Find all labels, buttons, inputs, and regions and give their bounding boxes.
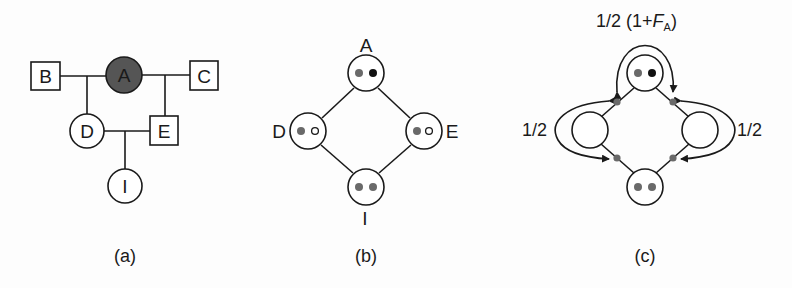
node-a xyxy=(348,55,384,91)
allele-black-icon xyxy=(648,69,656,77)
label-d: D xyxy=(272,121,286,142)
label-i: I xyxy=(122,176,127,197)
label-c: C xyxy=(197,66,211,87)
allele-gray-icon xyxy=(369,183,377,191)
edge-d-i xyxy=(321,145,353,173)
caption-a: (a) xyxy=(114,246,136,266)
label-b: B xyxy=(39,66,52,87)
node-right xyxy=(682,112,718,148)
gamete-dot-icon xyxy=(613,154,620,161)
gamete-dot-icon xyxy=(669,98,676,105)
node-bottom xyxy=(627,169,663,205)
node-d xyxy=(290,113,326,149)
label-a: A xyxy=(118,65,131,86)
label-e: E xyxy=(446,121,459,142)
label-top-probability: 1/2 (1+FA) xyxy=(596,11,677,33)
allele-gray-icon xyxy=(634,69,642,77)
label-right-probability: 1/2 xyxy=(737,120,762,140)
caption-c: (c) xyxy=(635,246,656,266)
allele-open-icon xyxy=(426,128,433,135)
allele-gray-icon xyxy=(355,183,363,191)
label-left-probability: 1/2 xyxy=(522,120,547,140)
caption-b: (b) xyxy=(355,246,377,266)
gamete-dot-icon xyxy=(613,98,620,105)
figure: B A C D E I (a) A D E I (b) xyxy=(0,0,792,288)
label-i: I xyxy=(362,208,367,229)
node-i xyxy=(348,169,384,205)
allele-gray-icon xyxy=(297,127,305,135)
allele-open-icon xyxy=(312,128,319,135)
panel-c-probability-diagram xyxy=(555,46,734,206)
node-left xyxy=(572,112,608,148)
label-e: E xyxy=(158,121,171,142)
edge-a-d xyxy=(322,88,354,118)
allele-gray-icon xyxy=(355,69,363,77)
gamete-dot-icon xyxy=(669,154,676,161)
node-e xyxy=(406,113,442,149)
edge-a-e xyxy=(378,88,410,118)
label-a: A xyxy=(360,35,373,56)
edge-e-i xyxy=(379,145,411,173)
allele-gray-icon xyxy=(648,183,656,191)
label-d: D xyxy=(80,121,94,142)
node-top xyxy=(627,55,663,91)
allele-gray-icon xyxy=(413,127,421,135)
allele-gray-icon xyxy=(634,183,642,191)
allele-black-icon xyxy=(369,69,377,77)
